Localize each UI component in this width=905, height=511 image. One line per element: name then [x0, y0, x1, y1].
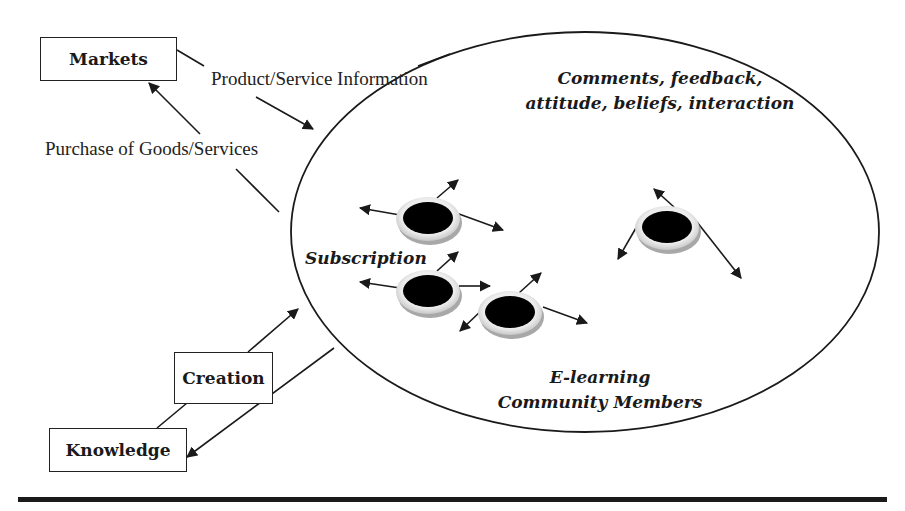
- markets-info-connector: [177, 50, 204, 66]
- comments-line-1: Comments, feedback,: [520, 66, 800, 91]
- bottom-rule: [18, 497, 887, 502]
- knowledge-creation-connector: [157, 403, 187, 428]
- subscription-label: Subscription: [305, 246, 427, 271]
- member-node-3[interactable]: [460, 273, 587, 339]
- comments-feedback-label: Comments, feedback, attitude, beliefs, i…: [520, 66, 800, 116]
- knowledge-box[interactable]: Knowledge: [49, 428, 187, 472]
- ellipse-info-connector: [418, 54, 450, 66]
- markets-box[interactable]: Markets: [40, 37, 177, 81]
- purchase-arrow[interactable]: [149, 83, 200, 134]
- member-node-1[interactable]: [360, 180, 503, 245]
- comments-line-2: attitude, beliefs, interaction: [520, 91, 800, 116]
- product-service-information-label: Product/Service Information: [211, 68, 428, 90]
- creation-to-community-arrow[interactable]: [248, 309, 298, 352]
- member-node-4[interactable]: [618, 189, 741, 278]
- purchase-of-goods-services-label: Purchase of Goods/Services: [45, 138, 258, 160]
- product-info-arrow[interactable]: [256, 97, 313, 129]
- community-members-label: E-learning Community Members: [480, 365, 720, 415]
- community-line-2: Community Members: [480, 390, 720, 415]
- purchase-connector: [236, 169, 279, 212]
- community-line-1: E-learning: [480, 365, 720, 390]
- creation-box[interactable]: Creation: [174, 352, 273, 404]
